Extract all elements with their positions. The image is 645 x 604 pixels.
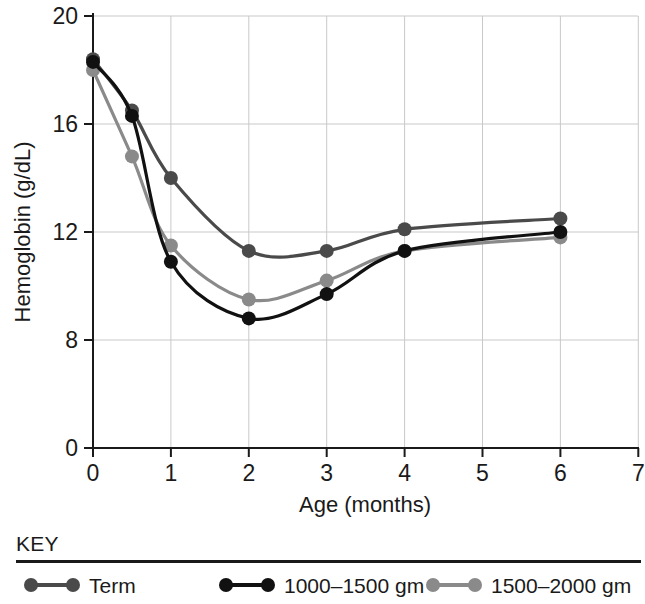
x-tick-label: 2 [242, 460, 255, 486]
hemoglobin-age-figure: 20161280 01234567 Hemoglobin (g/dL) Age … [0, 0, 645, 604]
legend-item: 1500–2000 gm [426, 568, 631, 602]
legend-items: Term1000–1500 gm1500–2000 gm [16, 568, 645, 602]
legend-item-label: 1500–2000 gm [491, 575, 631, 596]
data-point-marker [320, 287, 334, 301]
x-tick-label: 0 [87, 460, 100, 486]
legend-item: 1000–1500 gm [219, 568, 424, 602]
data-point-marker [398, 244, 412, 258]
y-tick-label: 20 [52, 3, 78, 29]
y-tick-labels-group: 20161280 [52, 3, 78, 461]
legend-item-label: Term [89, 575, 136, 596]
y-tick-label: 8 [65, 327, 78, 353]
legend-title: KEY [16, 532, 59, 556]
data-point-marker [164, 255, 178, 269]
y-tick-label: 12 [52, 219, 78, 245]
data-point-marker [398, 222, 412, 236]
data-point-marker [86, 55, 100, 69]
data-point-marker [242, 293, 256, 307]
data-point-marker [553, 212, 567, 226]
legend-swatch-icon [426, 576, 482, 594]
x-tick-label: 6 [554, 460, 567, 486]
data-point-marker [125, 109, 139, 123]
x-tick-label: 4 [398, 460, 411, 486]
data-point-marker [242, 244, 256, 258]
legend-item: Term [24, 568, 136, 602]
data-point-marker [553, 225, 567, 239]
legend: KEY Term1000–1500 gm1500–2000 gm [0, 530, 645, 604]
legend-divider [16, 560, 641, 563]
x-tick-label: 7 [632, 460, 645, 486]
data-point-marker [164, 171, 178, 185]
y-axis-title: Hemoglobin (g/dL) [10, 142, 35, 323]
data-point-marker [320, 274, 334, 288]
x-tick-labels-group: 01234567 [87, 460, 645, 486]
x-tick-label: 3 [320, 460, 333, 486]
data-point-marker [125, 149, 139, 163]
x-ticks-group [93, 448, 638, 457]
y-tick-label: 16 [52, 111, 78, 137]
x-tick-label: 5 [476, 460, 489, 486]
y-tick-label: 0 [65, 435, 78, 461]
line-chart-svg: 20161280 01234567 Hemoglobin (g/dL) Age … [0, 0, 645, 530]
x-tick-label: 1 [165, 460, 178, 486]
chart-plot-area: 20161280 01234567 Hemoglobin (g/dL) Age … [0, 0, 645, 530]
data-point-marker [320, 244, 334, 258]
y-ticks-group [84, 16, 93, 448]
data-point-marker [242, 311, 256, 325]
legend-swatch-icon [219, 576, 275, 594]
legend-swatch-icon [24, 576, 80, 594]
legend-item-label: 1000–1500 gm [284, 575, 424, 596]
x-axis-title: Age (months) [299, 492, 431, 517]
